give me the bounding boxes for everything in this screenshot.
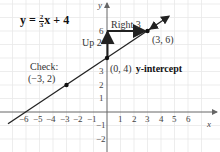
intercept-text: y-intercept [136, 63, 182, 74]
x-tick-neg2: −2 [73, 115, 83, 124]
y-tick-6: 6 [99, 27, 104, 36]
x-tick-neg5: −5 [33, 115, 43, 124]
y-tick-3: 3 [99, 67, 104, 76]
y-axis-label: y [98, 1, 102, 10]
point-3-6-label: (3, 6) [152, 35, 174, 45]
x-tick-2: 2 [132, 115, 137, 124]
x-tick-3: 3 [145, 115, 150, 124]
x-tick-4: 4 [159, 115, 164, 124]
x-tick-neg1: −1 [87, 115, 97, 124]
x-tick-6: 6 [186, 115, 191, 124]
y-tick-neg2: −2 [96, 135, 106, 144]
equation-rhs: x + 4 [44, 13, 69, 27]
right-3-label: Right 3 [111, 20, 141, 30]
equation-lhs: y = [20, 13, 39, 27]
point-intercept [105, 56, 109, 60]
x-tick-neg6: −6 [19, 115, 29, 124]
y-tick-neg1: −1 [96, 121, 106, 130]
x-tick-5: 5 [172, 115, 177, 124]
equation: y = 23x + 4 [20, 14, 69, 29]
x-axis-label: x [207, 120, 211, 129]
intercept-coords: (0, 4) [110, 63, 132, 74]
x-tick-neg4: −4 [46, 115, 56, 124]
check-point-label: (−3, 2) [28, 74, 55, 84]
up-2-label: Up 2 [82, 38, 102, 48]
point-3-6 [145, 29, 149, 33]
check-label: Check: [30, 62, 58, 72]
x-tick-1: 1 [118, 115, 123, 124]
y-tick-1: 1 [99, 94, 104, 103]
x-tick-neg3: −3 [60, 115, 70, 124]
y-tick-2: 2 [99, 81, 104, 90]
graph-line-upper [147, 16, 169, 31]
point-check [64, 83, 68, 87]
intercept-label: (0, 4) y-intercept [110, 59, 182, 75]
